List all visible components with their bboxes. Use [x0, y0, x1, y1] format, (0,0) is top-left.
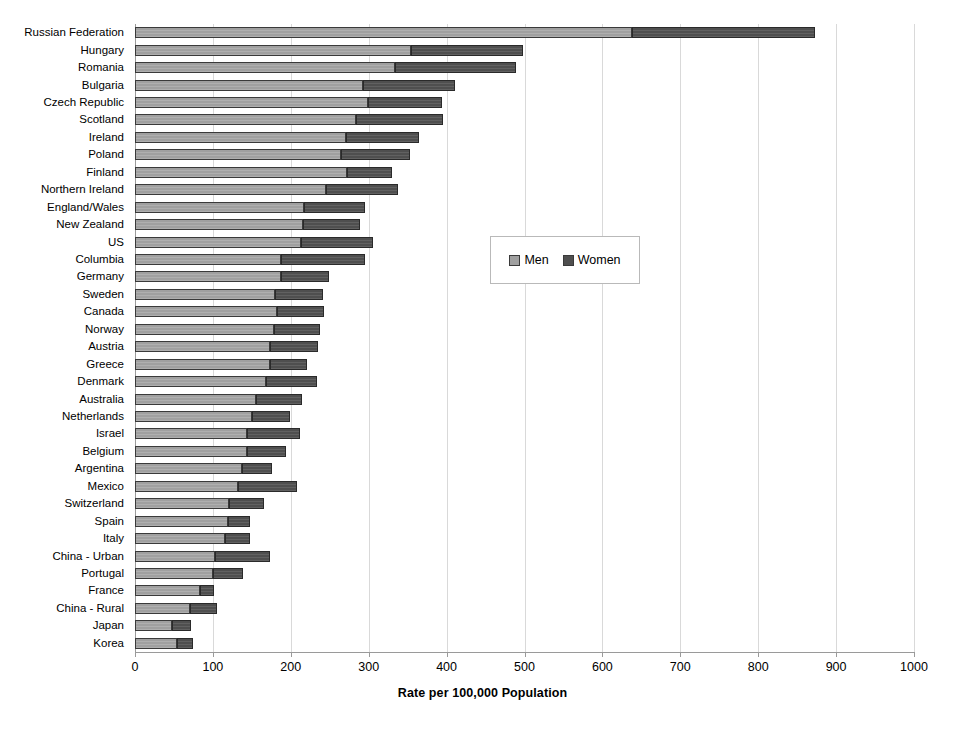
bar-segment-men	[135, 132, 346, 143]
gridline-400	[447, 24, 448, 652]
bar-row	[135, 219, 360, 230]
bar-row	[135, 638, 193, 649]
bar-segment-women	[215, 551, 270, 562]
category-label-china-rural: China - Rural	[56, 602, 124, 614]
bar-row	[135, 149, 410, 160]
x-tick-mark-300	[369, 652, 370, 657]
bar-segment-women	[172, 620, 191, 631]
bar-row	[135, 359, 307, 370]
x-tick-mark-200	[291, 652, 292, 657]
bar-segment-men	[135, 638, 177, 649]
bar-segment-men	[135, 289, 275, 300]
bar-segment-women	[256, 394, 302, 405]
bar-row	[135, 289, 323, 300]
bar-segment-men	[135, 97, 368, 108]
bar-segment-women	[281, 271, 329, 282]
category-label-greece: Greece	[86, 358, 124, 370]
bar-segment-women	[346, 132, 419, 143]
bar-row	[135, 428, 300, 439]
bar-segment-women	[200, 585, 215, 596]
category-label-new-zealand: New Zealand	[56, 218, 124, 230]
bar-segment-men	[135, 306, 277, 317]
bar-segment-women	[411, 45, 523, 56]
bar-segment-men	[135, 114, 356, 125]
bar-row	[135, 306, 324, 317]
category-label-austria: Austria	[88, 340, 124, 352]
bar-segment-men	[135, 27, 632, 38]
bar-row	[135, 498, 264, 509]
category-label-bulgaria: Bulgaria	[82, 79, 124, 91]
x-tick-label-600: 600	[592, 660, 613, 674]
bar-segment-women	[277, 306, 324, 317]
bar-row	[135, 80, 455, 91]
bar-row	[135, 62, 516, 73]
category-label-czech-republic: Czech Republic	[43, 96, 124, 108]
legend-label-women: Women	[578, 253, 621, 267]
bar-segment-men	[135, 481, 238, 492]
category-label-us: US	[108, 236, 124, 248]
gridline-500	[525, 24, 526, 652]
bar-row	[135, 463, 272, 474]
bar-segment-women	[190, 603, 216, 614]
bar-segment-women	[238, 481, 297, 492]
bar-segment-women	[303, 219, 360, 230]
category-label-switzerland: Switzerland	[65, 497, 124, 509]
bar-segment-men	[135, 254, 281, 265]
bar-segment-men	[135, 271, 281, 282]
bar-segment-men	[135, 45, 411, 56]
category-label-finland: Finland	[86, 166, 124, 178]
gridline-900	[836, 24, 837, 652]
bar-segment-women	[266, 376, 317, 387]
category-label-australia: Australia	[79, 393, 124, 405]
category-label-germany: Germany	[77, 270, 124, 282]
bar-row	[135, 237, 373, 248]
bar-row	[135, 481, 297, 492]
category-label-israel: Israel	[96, 427, 124, 439]
bar-segment-women	[228, 516, 249, 527]
x-tick-label-700: 700	[670, 660, 691, 674]
bar-row	[135, 394, 302, 405]
bar-row	[135, 585, 214, 596]
bar-segment-men	[135, 463, 242, 474]
bar-segment-women	[242, 463, 272, 474]
bar-segment-women	[274, 324, 321, 335]
bar-segment-men	[135, 568, 213, 579]
x-tick-mark-100	[213, 652, 214, 657]
bar-row	[135, 27, 815, 38]
bar-segment-men	[135, 376, 266, 387]
x-axis-title: Rate per 100,000 Population	[0, 686, 965, 700]
bar-segment-men	[135, 603, 190, 614]
category-label-sweden: Sweden	[82, 288, 124, 300]
category-label-china-urban: China - Urban	[52, 550, 124, 562]
bar-row	[135, 620, 191, 631]
category-label-poland: Poland	[88, 148, 124, 160]
gridline-1000	[914, 24, 915, 652]
category-label-norway: Norway	[85, 323, 124, 335]
bar-segment-men	[135, 62, 395, 73]
x-tick-label-400: 400	[436, 660, 457, 674]
bar-segment-women	[270, 341, 318, 352]
category-label-denmark: Denmark	[77, 375, 124, 387]
bar-row	[135, 114, 443, 125]
bar-segment-men	[135, 80, 363, 91]
x-tick-label-900: 900	[826, 660, 847, 674]
bar-segment-women	[341, 149, 410, 160]
category-label-argentina: Argentina	[75, 462, 124, 474]
category-label-romania: Romania	[78, 61, 124, 73]
bar-row	[135, 376, 317, 387]
x-axis-tick-labels: 01002003004005006007008009001000	[135, 660, 914, 680]
bar-row	[135, 97, 442, 108]
category-label-columbia: Columbia	[75, 253, 124, 265]
category-label-belgium: Belgium	[82, 445, 124, 457]
bar-segment-women	[275, 289, 323, 300]
category-label-england-wales: England/Wales	[47, 201, 124, 213]
bar-segment-men	[135, 516, 228, 527]
gridline-700	[680, 24, 681, 652]
bar-segment-women	[304, 202, 365, 213]
bar-segment-men	[135, 394, 256, 405]
bar-segment-men	[135, 167, 347, 178]
x-tick-mark-500	[525, 652, 526, 657]
legend-swatch-men-icon	[509, 255, 520, 266]
category-label-russian-federation: Russian Federation	[24, 26, 124, 38]
x-tick-mark-600	[602, 652, 603, 657]
